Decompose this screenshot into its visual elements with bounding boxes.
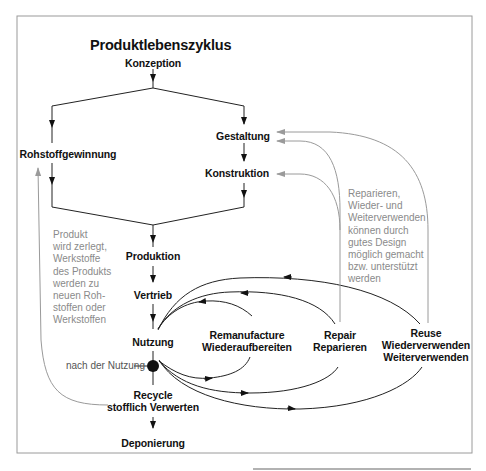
diagram-canvas: Produktlebenszyklus Konzeption Rohstoffg… — [0, 0, 486, 471]
reuse-de-1: Wiederverwenden — [382, 339, 470, 351]
node-recycle: Recycle stofflich Verwerten — [107, 389, 199, 413]
note-design: Reparieren, Wieder- und Weiterverwenden … — [348, 188, 426, 286]
reuse-en: Reuse — [382, 327, 470, 339]
node-repair: Repair Reparieren — [313, 329, 367, 353]
repair-en: Repair — [313, 329, 367, 341]
node-reuse: Reuse Wiederverwenden Weiterverwenden — [382, 327, 470, 363]
remanufacture-en: Remanufacture — [202, 329, 292, 341]
node-gestaltung: Gestaltung — [216, 130, 270, 142]
after-use-node — [147, 360, 159, 372]
remanufacture-de: Wiederaufbereiten — [202, 341, 292, 353]
node-konstruktion: Konstruktion — [205, 167, 269, 179]
repair-de: Reparieren — [313, 341, 367, 353]
node-nutzung: Nutzung — [132, 336, 173, 348]
recycle-en: Recycle — [107, 389, 199, 401]
note-recycling: Produkt wird zerlegt, Werkstoffe des Pro… — [53, 229, 111, 327]
node-deponierung: Deponierung — [121, 437, 185, 449]
recycle-de: stofflich Verwerten — [107, 401, 199, 413]
node-konzeption: Konzeption — [125, 57, 181, 69]
node-remanufacture: Remanufacture Wiederaufbereiten — [202, 329, 292, 353]
node-vertrieb: Vertrieb — [134, 289, 172, 301]
node-produktion: Produktion — [126, 250, 180, 262]
label-nach-der-nutzung: nach der Nutzung — [66, 360, 145, 371]
reuse-de-2: Weiterverwenden — [382, 351, 470, 363]
diagram-title: Produktlebenszyklus — [90, 37, 231, 53]
node-rohstoffgewinnung: Rohstoffgewinnung — [20, 148, 117, 160]
